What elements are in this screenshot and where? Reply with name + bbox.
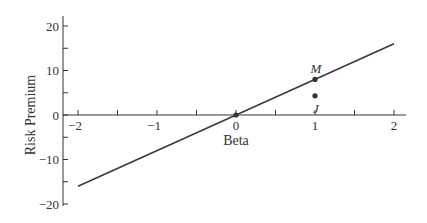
y-tick-label: −10: [39, 152, 59, 167]
x-tick-label: −2: [68, 118, 82, 133]
y-tick-label: 10: [46, 63, 59, 78]
point-m: [312, 77, 317, 82]
y-axis-label: Risk Premium: [23, 75, 38, 156]
x-tick-label: 2: [391, 118, 398, 133]
plot-area: 20100−10−20−2−1012BetaRisk PremiumMJ: [23, 16, 406, 212]
x-axis-label: Beta: [223, 133, 249, 148]
point-origin: [233, 112, 238, 117]
x-tick-label: −1: [147, 118, 161, 133]
point-label-m: M: [310, 61, 323, 76]
y-tick-label: 0: [53, 108, 60, 123]
point-j: [312, 93, 317, 98]
y-tick-label: −20: [39, 197, 59, 212]
chart: 20100−10−20−2−1012BetaRisk PremiumMJ: [0, 0, 427, 223]
x-tick-label: 0: [233, 118, 240, 133]
y-tick-label: 20: [46, 19, 59, 34]
point-label-j: J: [313, 101, 320, 116]
x-tick-label: 1: [312, 118, 319, 133]
